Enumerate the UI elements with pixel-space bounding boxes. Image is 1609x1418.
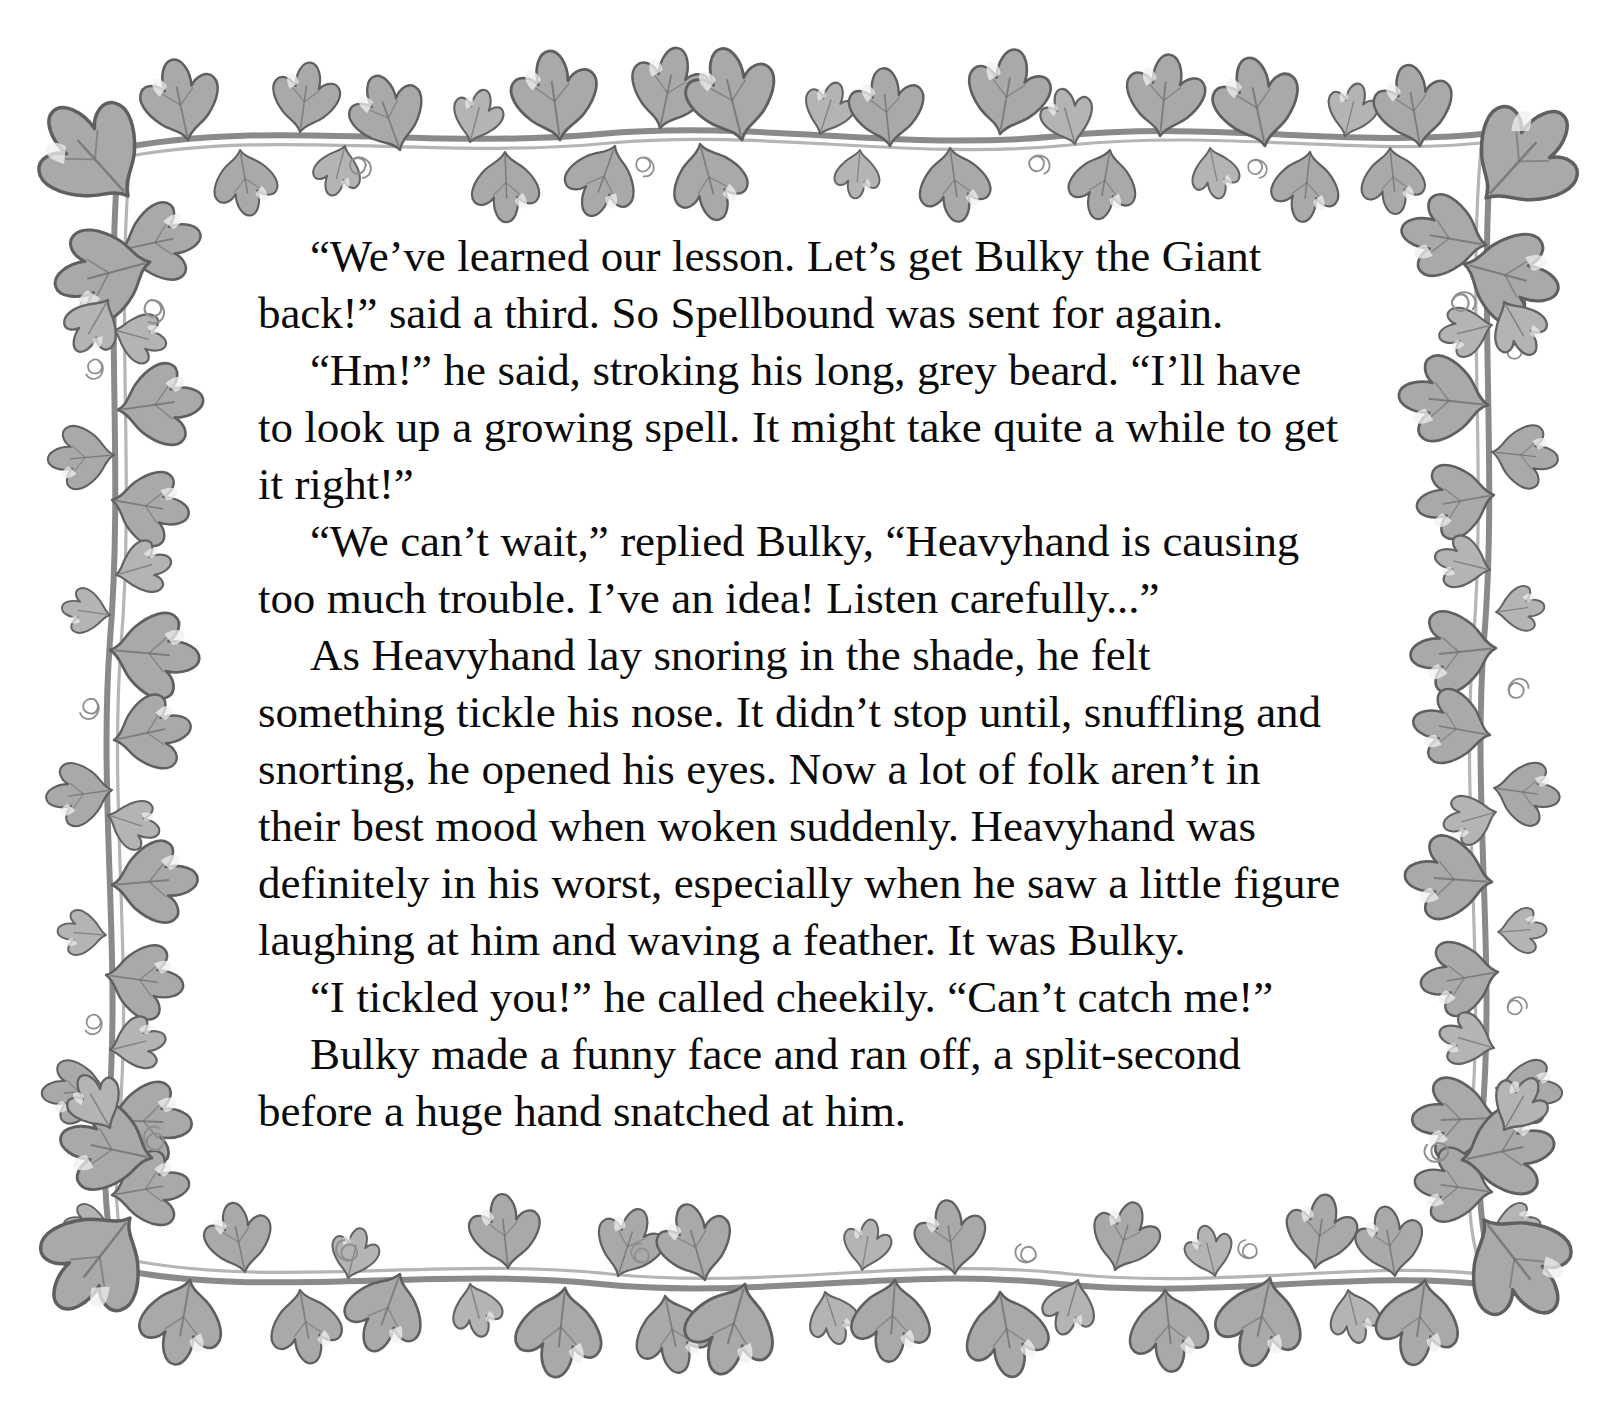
story-paragraph: Bulky made a funny face and ran off, a s… xyxy=(258,1026,1343,1140)
ivy-corner-bottom-right xyxy=(1421,1065,1596,1343)
story-paragraph: “We’ve learned our lesson. Let’s get Bul… xyxy=(258,228,1343,342)
ivy-border-left xyxy=(40,140,209,1270)
ivy-corner-top-right xyxy=(1447,79,1603,368)
story-paragraph: “We can’t wait,” replied Bulky, “Heavyha… xyxy=(258,513,1343,627)
story-paragraph: As Heavyhand lay snoring in the shade, h… xyxy=(258,627,1343,969)
story-paragraph: “Hm!” he said, stroking his long, grey b… xyxy=(258,342,1343,513)
ivy-border-bottom xyxy=(112,1190,1500,1386)
storybook-page: “We’ve learned our lesson. Let’s get Bul… xyxy=(0,0,1609,1418)
story-paragraph: “I tickled you!” he called cheekily. “Ca… xyxy=(258,969,1343,1026)
ivy-border-right xyxy=(1394,138,1564,1272)
ivy-corner-bottom-left xyxy=(17,1062,172,1339)
ivy-border-top xyxy=(112,38,1500,229)
ivy-corner-top-left xyxy=(13,75,169,365)
story-text-block: “We’ve learned our lesson. Let’s get Bul… xyxy=(258,228,1343,1140)
